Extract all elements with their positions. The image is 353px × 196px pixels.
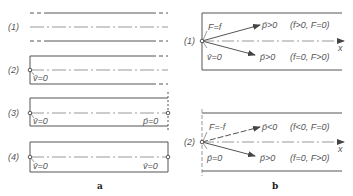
case-label-a3: (3)	[8, 108, 19, 118]
upper-cond-b1: (f>0, F=0)	[290, 20, 330, 30]
bc-right-a4: v̄=0	[143, 161, 158, 171]
bc-lower-left-b1: v̄=0	[207, 52, 222, 62]
lower-cond-b2: (f=0, F>0)	[290, 153, 330, 163]
bc-upper-left-b2: F=-f	[209, 122, 227, 132]
bc-lower-left-b2: p̄=0	[206, 153, 222, 163]
bc-left-a4: v̄=0	[33, 161, 48, 171]
panel-a-case-2	[28, 56, 168, 84]
upper-ray-label-b2: p̄<0	[261, 122, 277, 132]
bc-upper-left-b1: F=f	[208, 22, 223, 32]
x-axis-label-b1: x	[337, 43, 343, 53]
case-label-b1: (1)	[184, 36, 195, 46]
x-axis-label-b2: x	[337, 144, 343, 154]
lower-cond-b1: (f=0, F>0)	[290, 52, 330, 62]
case-label-a2: (2)	[8, 65, 19, 75]
upper-cond-b2: (f<0, F=0)	[290, 122, 330, 132]
upper-ray-label-b1: p̄>0	[261, 20, 277, 30]
bc-right-a3: p̄=0	[142, 116, 158, 126]
panel-a-case-1	[30, 13, 168, 41]
case-label-a1: (1)	[8, 22, 19, 32]
bc-left-a3: v̄=0	[33, 116, 48, 126]
panel-b-caption: b	[272, 181, 278, 191]
lower-ray-label-b2: p̄>0	[259, 153, 275, 163]
panel-a	[28, 13, 170, 172]
lower-ray-label-b1: p̄>0	[259, 52, 275, 62]
case-label-a4: (4)	[8, 152, 19, 162]
panel-b-case-2	[200, 109, 344, 176]
bc-left-a2: v̄=0	[33, 73, 48, 83]
case-label-b2: (2)	[184, 137, 195, 147]
panel-b	[200, 13, 344, 176]
diagram-canvas: (1) (2) v̄=0 (3) v̄=0 p̄=0 (4) v̄=0 v̄=0…	[0, 0, 353, 196]
panel-a-caption: a	[97, 181, 103, 191]
